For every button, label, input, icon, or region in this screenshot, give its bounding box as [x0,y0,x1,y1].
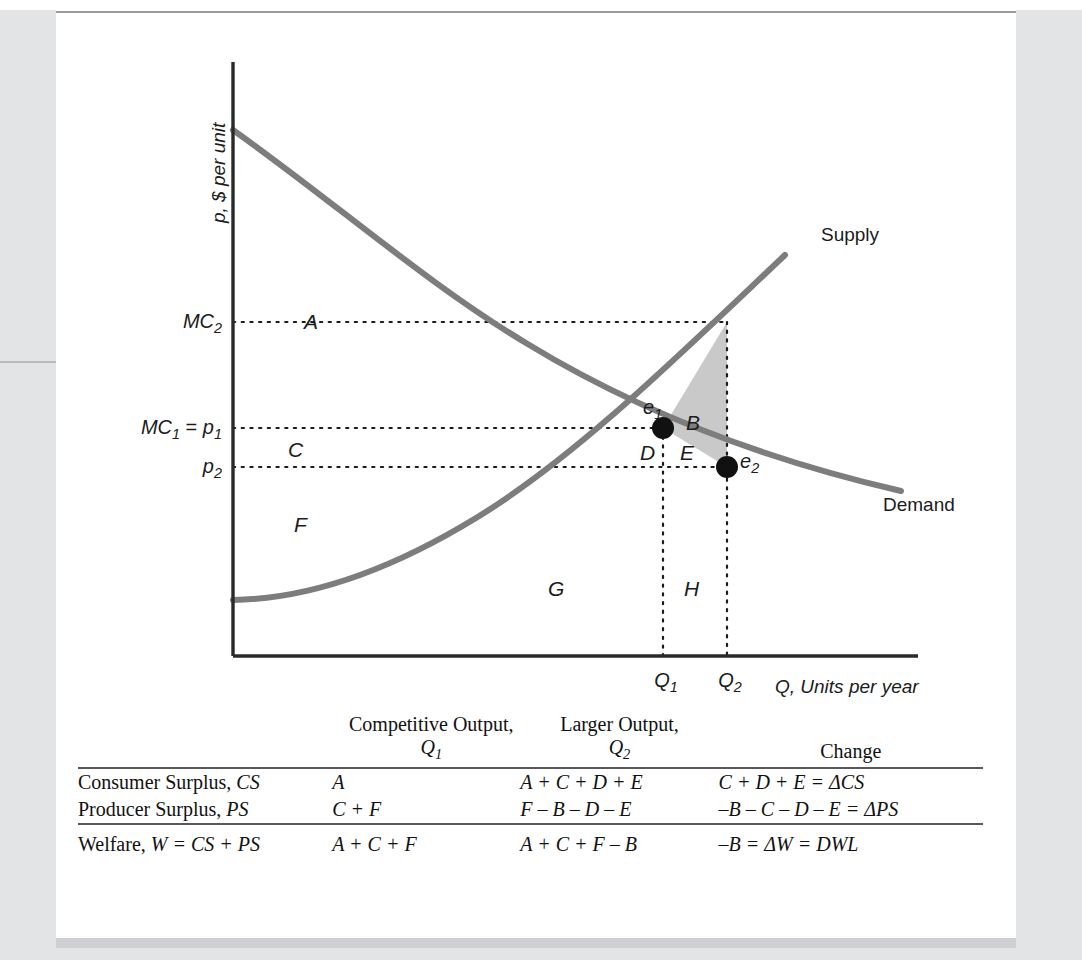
panel-shadow [56,938,1016,948]
region-label-h: H [684,577,699,601]
figure-svg [56,13,1016,713]
cell-producer-surplus-q2: F – B – D – E [520,796,718,823]
demand-curve-label: Demand [883,494,955,516]
table-row: Consumer Surplus, CS A A + C + D + E C +… [78,769,983,796]
frame-left-rule [0,361,56,363]
row-label-consumer-surplus: Consumer Surplus, CS [78,769,332,796]
cell-producer-surplus-q1: C + F [332,796,520,823]
table-row: Producer Surplus, PS C + F F – B – D – E… [78,796,983,823]
cell-consumer-surplus-q1: A [332,769,520,796]
y-tick-label-mc1-p1: MC1 = p1 [76,416,222,442]
cell-consumer-surplus-change: C + D + E = ΔCS [719,769,983,796]
y-tick-label-p2: p2 [118,455,222,481]
header-q1-symbol: Q1 [342,736,520,763]
cell-consumer-surplus-q2: A + C + D + E [520,769,718,796]
point-label-e1: e1 [643,396,662,422]
region-label-a: A [304,310,318,334]
cell-welfare-change: –B = ΔW = DWL [719,825,983,858]
content-panel: p, $ per unit Q, Units per year MC2 MC1 … [56,13,1016,938]
row-label-welfare: Welfare, W = CS + PS [78,825,332,858]
header-change: Change [719,713,983,767]
x-tick-label-q2: Q2 [710,669,750,695]
equilibrium-point-e2 [716,456,738,478]
region-label-e: E [680,441,694,465]
welfare-table-container: Competitive Output, Q1 Larger Output, Q2 [56,713,1016,858]
header-q2-symbol: Q2 [520,736,718,763]
welfare-table: Competitive Output, Q1 Larger Output, Q2 [78,713,983,858]
header-competitive-output: Competitive Output, Q1 [332,713,520,767]
frame-left-band [0,10,56,960]
table-row: Welfare, W = CS + PS A + C + F A + C + F… [78,825,983,858]
region-label-b: B [686,411,700,435]
cell-welfare-q1: A + C + F [332,825,520,858]
x-tick-label-q1: Q1 [646,669,686,695]
table-header-row: Competitive Output, Q1 Larger Output, Q2 [78,713,983,767]
frame-right-band [1016,10,1082,960]
supply-curve-label: Supply [821,224,879,246]
region-label-g: G [548,577,564,601]
header-larger-output: Larger Output, Q2 [520,713,718,767]
demand-curve [233,130,901,491]
region-label-f: F [294,513,307,537]
header-blank [78,713,332,767]
x-axis-title: Q, Units per year [775,676,919,698]
region-label-c: C [288,438,303,462]
region-label-d: D [640,441,655,465]
supply-demand-figure: p, $ per unit Q, Units per year MC2 MC1 … [56,13,1016,713]
row-label-producer-surplus: Producer Surplus, PS [78,796,332,823]
point-label-e2: e2 [740,450,759,476]
cell-producer-surplus-change: –B – C – D – E = ΔPS [719,796,983,823]
page-root: p, $ per unit Q, Units per year MC2 MC1 … [0,0,1082,960]
cell-welfare-q2: A + C + F – B [520,825,718,858]
y-tick-label-mc2: MC2 [118,310,222,336]
y-axis-title: p, $ per unit [208,123,230,223]
